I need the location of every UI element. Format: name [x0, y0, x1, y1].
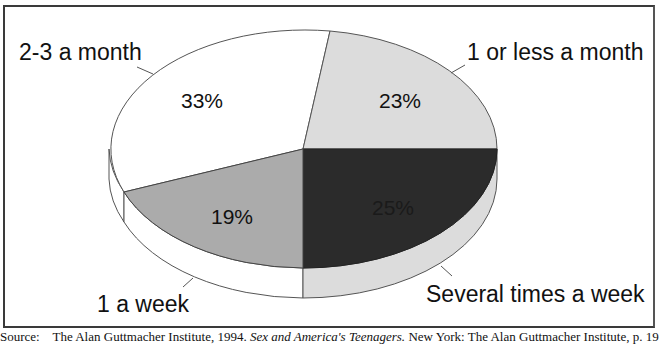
- percent-several-week: 25%: [372, 196, 414, 220]
- source-title: Sex and America's Teenagers.: [250, 329, 405, 344]
- label-1-week: 1 a week: [97, 291, 189, 318]
- source-prefix: Source:: [0, 329, 40, 344]
- percent-1-or-less-month: 23%: [379, 89, 421, 113]
- leader-1-week: [183, 278, 193, 287]
- label-1-or-less-month: 1 or less a month: [467, 39, 643, 66]
- percent-1-week: 19%: [211, 205, 253, 229]
- label-2-3-month: 2-3 a month: [19, 39, 142, 66]
- leader-2-3-month: [137, 67, 153, 74]
- leader-several-week: [441, 266, 452, 276]
- label-several-week: Several times a week: [426, 281, 645, 308]
- leader-1-or-less-month: [451, 65, 465, 73]
- percent-2-3-month: 33%: [181, 89, 223, 113]
- source-citation: Source: The Alan Guttmacher Institute, 1…: [0, 329, 659, 345]
- source-text-b: New York: The Alan Guttmacher Institute,…: [408, 329, 658, 344]
- source-text-a: The Alan Guttmacher Institute, 1994.: [52, 329, 246, 344]
